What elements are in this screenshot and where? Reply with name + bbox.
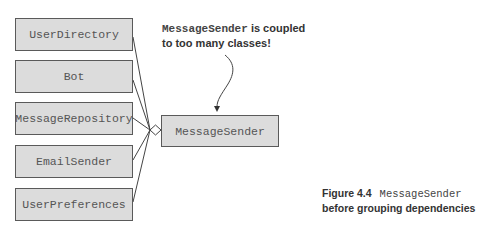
edge-email-sender: [133, 130, 150, 160]
coupling-annotation: MessageSender is coupled to too many cla…: [162, 21, 305, 50]
annotation-line-2: to too many classes!: [162, 36, 305, 50]
annotation-text-1: is coupled: [248, 22, 305, 34]
figure-caption: Figure 4.4MessageSender before grouping …: [322, 186, 475, 215]
edge-bot: [133, 80, 150, 130]
caption-line-2: before grouping dependencies: [322, 201, 475, 215]
arrowhead-icon: [214, 106, 220, 112]
class-label: UserDirectory: [29, 28, 119, 41]
caption-line-1: Figure 4.4MessageSender: [322, 186, 475, 201]
caption-code-term: MessageSender: [380, 188, 462, 200]
class-box-message-repository: MessageRepository: [15, 102, 133, 135]
class-label: Bot: [64, 70, 85, 83]
class-box-user-preferences: UserPreferences: [15, 188, 133, 221]
diagram-canvas: UserDirectory Bot MessageRepository Emai…: [0, 0, 488, 234]
edge-user-directory: [133, 37, 150, 130]
annotation-arrow: [217, 55, 233, 107]
class-label: MessageSender: [175, 125, 265, 138]
class-label: UserPreferences: [22, 198, 126, 211]
figure-label: Figure 4.4: [322, 187, 372, 199]
class-box-email-sender: EmailSender: [15, 145, 133, 178]
class-box-bot: Bot: [15, 60, 133, 93]
class-label: MessageRepository: [15, 112, 132, 125]
edge-user-preferences: [133, 130, 150, 202]
class-box-user-directory: UserDirectory: [15, 18, 133, 51]
aggregation-diamond-icon: [150, 125, 161, 135]
annotation-line-1: MessageSender is coupled: [162, 21, 305, 36]
class-label: EmailSender: [36, 155, 112, 168]
class-box-message-sender: MessageSender: [161, 115, 279, 147]
annotation-code-term: MessageSender: [162, 23, 248, 35]
